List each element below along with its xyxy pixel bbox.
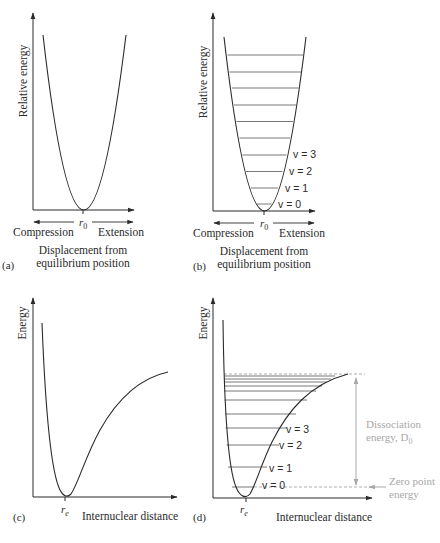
panel-b: v = 3 v = 2 v = 1 v = 0 Relative energy …: [193, 13, 325, 273]
panel-tag: (d): [193, 511, 206, 524]
extension-label: Extension: [279, 227, 325, 239]
y-axis-label: Relative energy: [197, 46, 210, 119]
y-axis-label: Relative energy: [17, 45, 30, 118]
x-caption: Internuclear distance: [82, 510, 178, 522]
compression-label: Compression: [193, 227, 254, 240]
r0-label: r0: [260, 217, 268, 232]
x-caption-line1: Displacement from: [39, 244, 128, 257]
x-caption-line2: equilibrium position: [36, 257, 130, 270]
morse-potential-curve: [42, 323, 168, 496]
panel-tag: (b): [193, 260, 206, 273]
y-axis-label: Energy: [197, 306, 210, 339]
level-label-v1: v = 1: [285, 182, 308, 194]
panel-c: Energy re Internuclear distance (c): [13, 298, 178, 524]
zero-point-energy-label-line2: energy: [389, 488, 419, 500]
energy-diagrams: Relative energy r0 Compression Extension…: [0, 0, 440, 543]
panel-tag: (a): [2, 259, 15, 272]
extension-label: Extension: [98, 226, 144, 238]
compression-label: Compression: [13, 226, 74, 239]
x-caption-line1: Displacement from: [220, 245, 309, 258]
level-label-v2: v = 2: [289, 165, 312, 177]
re-label: re: [61, 503, 69, 518]
r0-label: r0: [79, 216, 87, 231]
level-label-v3: v = 3: [286, 423, 309, 435]
level-label-v1: v = 1: [269, 462, 292, 474]
x-caption: Internuclear distance: [276, 511, 372, 523]
x-caption-line2: equilibrium position: [217, 258, 311, 271]
panel-d: v = 3 v = 2 v = 1 v = 0 Energy re Intern…: [193, 298, 435, 524]
y-axis-label: Energy: [16, 306, 29, 339]
zero-point-energy-label-line1: Zero point: [389, 475, 435, 487]
panel-a: Relative energy r0 Compression Extension…: [2, 13, 144, 272]
level-label-v3: v = 3: [293, 148, 316, 160]
level-label-v2: v = 2: [279, 439, 302, 451]
level-label-v0: v = 0: [262, 479, 285, 491]
re-label: re: [240, 503, 248, 518]
level-label-v0: v = 0: [278, 198, 301, 210]
panel-tag: (c): [13, 511, 26, 524]
harmonic-potential-curve: [43, 35, 126, 210]
dissociation-energy-label-line1: Dissociation: [366, 418, 421, 430]
dissociation-energy-label-line2: energy, D0: [366, 431, 412, 446]
